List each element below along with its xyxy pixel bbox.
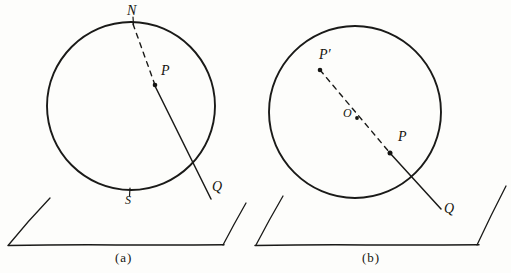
panel-a-point-p-dot — [153, 83, 158, 88]
figure-drawing — [0, 0, 511, 273]
panel-b-caption: (b) — [362, 250, 380, 266]
panel-b-point-p-dot — [388, 151, 393, 156]
panel-a-axis-dashed-line — [133, 24, 155, 85]
panel-b-group — [255, 26, 506, 245]
panel-b-center-o-dot — [355, 116, 359, 120]
panel-b-point-p-prime-label: P′ — [319, 48, 331, 62]
panel-b-plane-base-line — [255, 245, 479, 246]
panel-a-plane-base-line — [8, 245, 224, 246]
panel-a-ray-p-to-q — [154, 84, 211, 199]
panel-b-plane-right-edge — [477, 186, 506, 245]
panel-b-center-o-label: O — [343, 107, 352, 119]
figure-canvas: N P S Q (a) P′ O P Q (b) — [0, 0, 511, 273]
panel-a-plane-right-edge — [223, 203, 246, 245]
panel-a-plane-left-edge — [9, 198, 51, 245]
panel-a-caption: (a) — [115, 250, 132, 266]
panel-a-north-pole-label: N — [127, 4, 136, 18]
panel-b-point-p-label: P — [398, 130, 407, 144]
panel-b-plane-left-edge — [256, 196, 283, 245]
panel-b-ray-p-to-q — [389, 152, 441, 209]
panel-b-axis-dashed-line — [320, 70, 390, 153]
panel-a-point-q-label: Q — [212, 180, 222, 194]
panel-b-point-q-label: Q — [444, 202, 454, 216]
panel-a-sphere-outline — [47, 22, 215, 190]
panel-a-group — [8, 17, 246, 246]
panel-a-point-p-label: P — [161, 64, 170, 78]
panel-b-point-p-prime-dot — [318, 68, 323, 73]
panel-a-south-pole-label: S — [125, 194, 131, 206]
